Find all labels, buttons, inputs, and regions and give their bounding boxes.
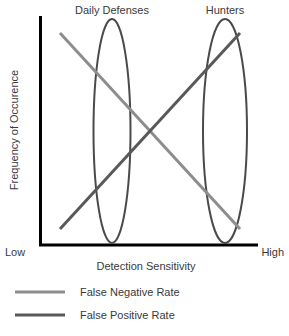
ellipse-daily-defenses [94,19,131,243]
group-label-daily-defenses: Daily Defenses [75,4,149,16]
x-axis-low-label: Low [5,246,25,258]
ellipse-hunters [203,19,247,243]
x-axis-high-label: High [261,246,284,258]
group-label-hunters: Hunters [206,4,245,16]
legend-label-false-positive-rate: False Positive Rate [80,309,175,321]
x-axis-title: Detection Sensitivity [96,260,196,272]
chart-canvas: Daily Defenses Hunters Frequency of Occu… [0,0,289,336]
chart-figure: Daily Defenses Hunters Frequency of Occu… [0,0,289,336]
y-axis-title: Frequency of Occurence [8,70,20,190]
legend-label-false-negative-rate: False Negative Rate [80,286,180,298]
